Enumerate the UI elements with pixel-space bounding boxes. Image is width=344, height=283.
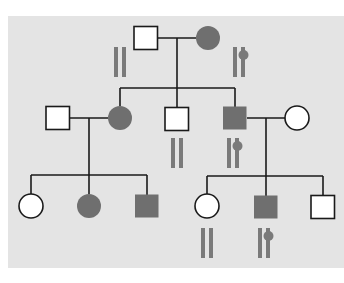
affected-female-III-2: [77, 194, 101, 218]
allele-marker-icon: [239, 50, 249, 60]
pedigree-canvas: [0, 0, 344, 283]
allele-marker-icon: [264, 231, 274, 241]
unaffected-male-II-1: [46, 107, 70, 130]
affected-male-III-5: [254, 196, 278, 219]
unaffected-female-II-5: [285, 106, 309, 130]
pedigree-diagram: [0, 0, 344, 283]
affected-female-II-2: [108, 106, 132, 130]
unaffected-female-III-1: [19, 194, 43, 218]
allele-marker-icon: [233, 141, 243, 151]
affected-male-III-3: [135, 195, 159, 218]
unaffected-male-III-6: [311, 196, 335, 219]
affected-male-II-4: [223, 107, 247, 130]
panel-background: [8, 16, 344, 268]
unaffected-male-II-3: [165, 108, 189, 131]
affected-female-I-2: [196, 26, 220, 50]
unaffected-male-I-1: [134, 27, 158, 50]
unaffected-female-III-4: [195, 194, 219, 218]
